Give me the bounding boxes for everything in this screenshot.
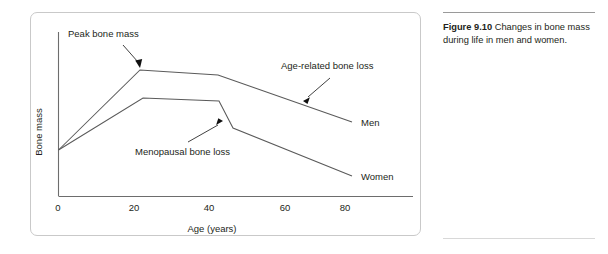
x-tick-label-20: 20: [129, 202, 140, 213]
figure-page: Bone mass 0 20 40 60 80 Age (years) Men …: [0, 0, 608, 254]
annotation-menopausal-bone-loss-arrow-icon: [216, 118, 223, 125]
annotation-peak-bone-mass-text: Peak bone mass: [68, 28, 139, 39]
annotation-menopausal-bone-loss-leader: [188, 125, 218, 142]
caption-figure-number: Figure 9.10: [443, 22, 492, 32]
annotation-menopausal-bone-loss-text: Menopausal bone loss: [135, 146, 230, 157]
x-tick-label-60: 60: [280, 202, 291, 213]
x-tick-label-40: 40: [204, 202, 215, 213]
x-tick-label-0: 0: [55, 202, 60, 213]
caption-paragraph: Figure 9.10 Changes in bone mass during …: [443, 21, 595, 47]
x-axis-title: Age (years): [187, 223, 236, 234]
series-line-women: [59, 98, 353, 176]
annotation-peak-bone-mass-leader: [123, 45, 138, 62]
series-label-women: Women: [361, 171, 394, 182]
series-line-men: [59, 70, 353, 150]
caption-divider: [443, 12, 595, 13]
y-axis-title: Bone mass: [33, 108, 44, 156]
annotation-peak-bone-mass-arrow-icon: [135, 59, 142, 68]
annotation-age-related-bone-loss-arrow-icon: [303, 97, 310, 104]
caption-bottom-divider: [443, 238, 595, 239]
series-label-men: Men: [361, 117, 379, 128]
annotation-age-related-bone-loss-leader: [308, 78, 330, 97]
annotation-age-related-bone-loss-text: Age-related bone loss: [281, 60, 374, 71]
figure-caption: Figure 9.10 Changes in bone mass during …: [443, 12, 595, 47]
x-tick-label-80: 80: [340, 202, 351, 213]
